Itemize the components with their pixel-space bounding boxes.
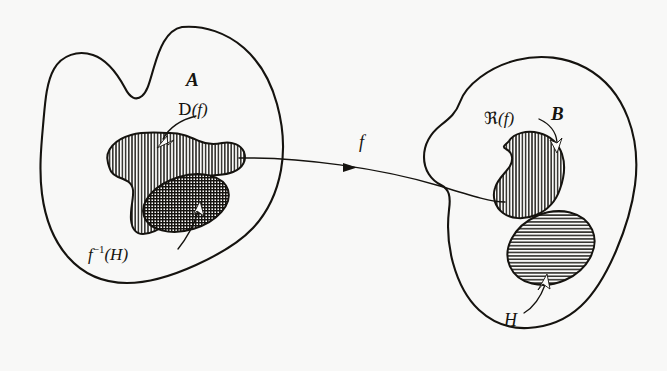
preimage-exponent: −1: [93, 243, 105, 255]
set-h-leader: [524, 285, 545, 313]
set-h-label: H: [504, 311, 517, 329]
range-arg: (f): [498, 109, 514, 128]
set-b-label: B: [551, 104, 564, 123]
domain-arg: (f): [192, 100, 208, 119]
range-frak-glyph: ℜ: [484, 108, 498, 128]
mapping-arrowhead: [343, 163, 357, 172]
function-label: f: [359, 133, 364, 151]
diagram-canvas: [0, 0, 667, 371]
domain-frak-glyph: D: [178, 99, 192, 119]
preimage-arg: (H): [104, 245, 128, 264]
domain-of-f-label: D(f): [178, 101, 208, 118]
set-a-label: A: [186, 70, 199, 89]
figure-root: A B f D(f) ℜ(f) f−1(H) H: [0, 0, 667, 371]
preimage-of-h-label: f−1(H): [88, 244, 128, 263]
range-of-f-label: ℜ(f): [484, 110, 514, 127]
